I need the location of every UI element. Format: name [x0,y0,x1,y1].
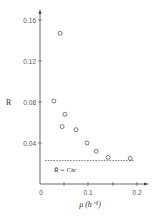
reference-annotation: R̄ = Cte [53,166,76,174]
x-tick-label: 0.2 [132,189,141,196]
x-tick-label: 0 [39,189,43,196]
chart: 0.04 0.08 0.12 0.16 0 0.1 0.2 R μ (h⁻¹) … [0,0,159,219]
y-axis-label: R [6,98,12,107]
data-point-marker [52,99,56,103]
data-point-marker [60,125,64,129]
data-point-marker [106,155,110,159]
data-point-marker [85,141,89,145]
y-ticks: 0.04 0.08 0.12 0.16 [23,17,42,147]
x-tick-label: 0.1 [83,189,92,196]
y-tick-label: 0.12 [23,58,36,65]
y-tick-label: 0.16 [23,17,36,24]
x-axis-label: μ (h⁻¹) [78,200,101,209]
data-point-marker [63,112,67,116]
data-point-marker [58,31,62,35]
data-point-marker [128,156,132,160]
data-point-marker [94,149,98,153]
y-tick-label: 0.08 [23,99,36,106]
data-points [52,31,132,160]
y-axis-arrow-icon [39,9,42,14]
x-axis-arrow-icon [144,183,149,186]
y-tick-label: 0.04 [23,140,36,147]
data-point-marker [74,128,78,132]
